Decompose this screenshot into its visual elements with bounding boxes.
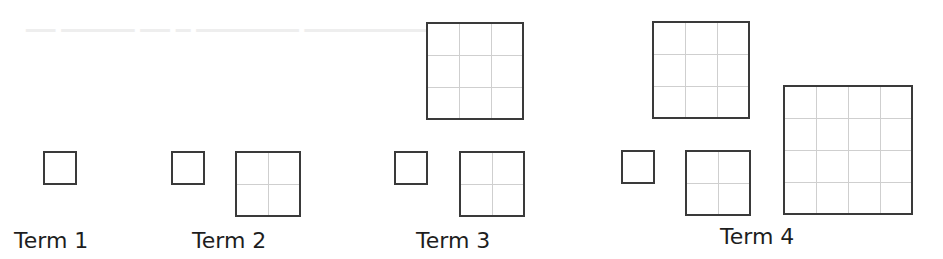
- square-3x3: [426, 22, 524, 120]
- bleed-through-text: ▁▁ ▁▁▁▁▁ ▁▁ ▁ ▁▁▁▁▁▁▁ ▁▁▁▁▁▁▁▁▁▁: [26, 10, 451, 31]
- term-label: Term 2: [192, 228, 266, 253]
- square-2x2: [459, 151, 525, 217]
- term-label: Term 4: [720, 224, 794, 249]
- square-4x4: [783, 85, 913, 215]
- term-label: Term 3: [416, 228, 490, 253]
- square-2x2: [685, 150, 751, 216]
- square-1x1: [394, 151, 428, 185]
- square-3x3: [652, 21, 750, 119]
- square-1x1: [621, 150, 655, 184]
- square-1x1: [43, 151, 77, 185]
- square-2x2: [235, 151, 301, 217]
- term-label: Term 1: [14, 228, 88, 253]
- figure-canvas: ▁▁ ▁▁▁▁▁ ▁▁ ▁ ▁▁▁▁▁▁▁ ▁▁▁▁▁▁▁▁▁▁ Term 1 …: [0, 0, 943, 259]
- square-1x1: [171, 151, 205, 185]
